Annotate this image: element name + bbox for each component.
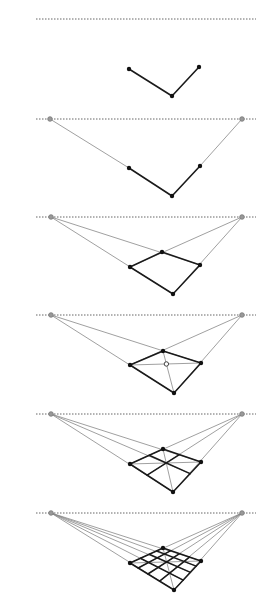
grid-line xyxy=(130,252,162,267)
vertex-point xyxy=(161,546,165,550)
center-marker xyxy=(164,362,168,366)
vertex-point xyxy=(199,460,203,464)
panel-step-6 xyxy=(36,511,256,593)
vertex-point xyxy=(199,559,203,563)
perspective-diagram xyxy=(0,0,276,602)
vanishing-point xyxy=(240,117,245,122)
vertex-point xyxy=(170,94,174,98)
vertex-point xyxy=(128,363,132,367)
vertex-point xyxy=(161,349,165,353)
grid-line xyxy=(174,561,201,590)
diagonal-line xyxy=(163,449,173,492)
vertex-point xyxy=(160,250,164,254)
vertex-point xyxy=(197,65,201,69)
grid-line xyxy=(130,563,174,590)
vanishing-point xyxy=(240,511,245,516)
vertex-point xyxy=(170,194,174,198)
construction-line xyxy=(50,119,129,168)
edge-line xyxy=(172,166,200,196)
panel-step-3 xyxy=(36,215,256,296)
edge-line xyxy=(129,168,172,196)
vertex-point xyxy=(171,490,175,494)
vanishing-point xyxy=(240,412,245,417)
construction-line xyxy=(200,119,242,166)
vanishing-point xyxy=(49,313,54,318)
grid-line xyxy=(130,464,173,492)
grid-line xyxy=(173,462,201,492)
grid-line xyxy=(174,363,201,393)
grid-line xyxy=(130,449,163,464)
vertex-point xyxy=(171,292,175,296)
vertex-point xyxy=(127,166,131,170)
vertex-point xyxy=(128,462,132,466)
grid-line xyxy=(163,449,201,462)
vertex-point xyxy=(161,447,165,451)
grid-line xyxy=(162,252,200,265)
vanishing-point xyxy=(49,215,54,220)
grid-line xyxy=(130,267,173,294)
panel-step-1 xyxy=(36,19,256,98)
vanishing-point xyxy=(48,117,53,122)
vertex-point xyxy=(198,164,202,168)
vanishing-point xyxy=(49,511,54,516)
grid-line xyxy=(130,351,163,365)
edge-line xyxy=(172,67,199,96)
grid-line xyxy=(163,548,201,561)
vertex-point xyxy=(198,263,202,267)
vanishing-point xyxy=(49,412,54,417)
vertex-point xyxy=(172,391,176,395)
edge-line xyxy=(129,69,172,96)
grid-line xyxy=(149,455,190,473)
grid-line xyxy=(163,351,201,363)
vertex-point xyxy=(199,361,203,365)
panel-step-2 xyxy=(36,117,256,199)
vertex-point xyxy=(128,561,132,565)
vertex-point xyxy=(128,265,132,269)
vanishing-point xyxy=(240,215,245,220)
vertex-point xyxy=(127,67,131,71)
vanishing-point xyxy=(240,313,245,318)
grid-line xyxy=(173,265,200,294)
panel-step-4 xyxy=(36,313,256,395)
panel-step-5 xyxy=(36,412,256,494)
vertex-point xyxy=(172,588,176,592)
